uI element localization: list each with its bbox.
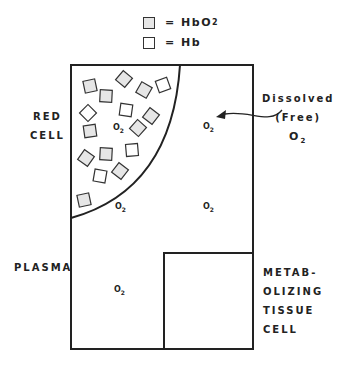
tissue-cell-label: METAB- OLIZING TISSUE CELL	[263, 263, 323, 339]
arrow-head-icon	[216, 110, 226, 119]
hb-square	[125, 143, 138, 156]
o2-marker-plasma-mid-right: O2	[203, 202, 214, 213]
o2-marker-plasma-near-cell: O2	[115, 202, 126, 213]
o2-marker-plasma-lower-left: O2	[114, 285, 125, 296]
o2-marker-red-cell: O2	[113, 123, 124, 134]
hb-square	[119, 103, 133, 117]
hb-square	[80, 105, 97, 122]
hbo2-square	[136, 82, 152, 98]
legend-label: = HbO	[165, 16, 212, 29]
dissolved-label: Dissolved (Free) O2	[262, 89, 334, 151]
hb-square	[93, 169, 107, 183]
hbo2-square	[77, 193, 91, 207]
hbo2-square	[112, 163, 129, 180]
hb-square	[155, 77, 170, 92]
hbo2-square	[100, 148, 113, 161]
tissue-cell-boundary	[164, 253, 253, 349]
red-cell-label: RED CELL	[30, 107, 65, 145]
hbo2-square	[116, 71, 133, 88]
hemoglobin-group	[77, 71, 171, 208]
hbo2-square	[78, 150, 95, 167]
o2-marker-plasma-upper-right: O2	[203, 122, 214, 133]
hbo2-square	[83, 79, 97, 93]
legend-item-hb: = Hb	[143, 36, 201, 49]
legend-label: = Hb	[165, 36, 201, 49]
plasma-label: PLASMA	[14, 258, 72, 277]
legend-item-hbo2: = HbO2	[143, 16, 219, 29]
hbo2-square	[130, 120, 147, 137]
hbo2-square	[143, 108, 160, 125]
hb-swatch-icon	[143, 37, 155, 49]
hbo2-square	[83, 124, 97, 138]
hbo2-square	[100, 90, 113, 103]
hbo2-swatch-icon	[143, 17, 155, 29]
